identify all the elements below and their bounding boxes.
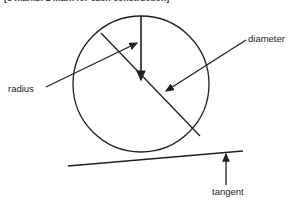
diameter-leader-arrow <box>166 40 246 91</box>
diameter-chord <box>101 33 200 136</box>
radius-leader-arrow <box>46 43 137 87</box>
circle-diagram <box>0 0 297 205</box>
label-radius: radius <box>8 83 34 94</box>
label-diameter: diameter <box>248 33 285 44</box>
tangent-line <box>68 151 243 166</box>
label-tangent: tangent <box>212 186 244 197</box>
worksheet-diagram-page: [3 marks: 1 mark for each construction] … <box>0 0 297 205</box>
